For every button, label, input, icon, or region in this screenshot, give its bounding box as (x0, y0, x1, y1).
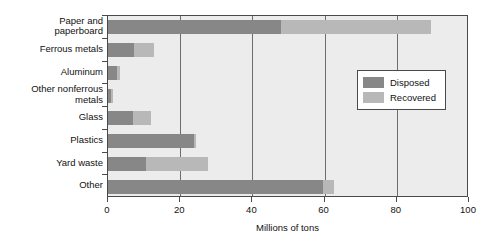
bar-row (108, 180, 334, 194)
bar-segment-recovered (146, 157, 208, 171)
bar-segment-recovered (134, 43, 154, 57)
y-axis-label: Aluminum (61, 67, 103, 78)
gridline (252, 16, 253, 196)
x-axis-tick (251, 197, 252, 202)
x-axis-tick (107, 197, 108, 202)
y-axis-label: Yard waste (56, 158, 103, 169)
gridline (325, 16, 326, 196)
x-axis-title-text: Millions of tons (256, 222, 319, 233)
bar-row (108, 134, 196, 148)
bar-segment-recovered (323, 180, 334, 194)
x-axis-tick-label: 20 (174, 204, 185, 215)
bar-segment-disposed (108, 111, 133, 125)
x-axis-tick (468, 197, 469, 202)
bar-segment-recovered (133, 111, 151, 125)
bar-row (108, 157, 208, 171)
bar-segment-recovered (111, 89, 113, 103)
y-axis-tick (102, 106, 107, 107)
legend-label-disposed: Disposed (390, 77, 430, 88)
x-axis-tick-label: 80 (391, 204, 402, 215)
y-axis-label: Ferrous metals (40, 44, 103, 55)
chart-legend: Disposed Recovered (357, 70, 446, 110)
y-axis-label: Glass (79, 112, 103, 123)
bar-segment-disposed (108, 43, 134, 57)
bar-row (108, 43, 154, 57)
y-axis-label: Other nonferrous metals (31, 84, 103, 105)
y-axis-tick (102, 61, 107, 62)
bar-row (108, 89, 113, 103)
bar-row (108, 111, 151, 125)
y-axis-tick (102, 152, 107, 153)
x-axis-tick (324, 197, 325, 202)
legend-label-recovered: Recovered (390, 92, 436, 103)
bar-segment-disposed (108, 134, 194, 148)
bar-row (108, 66, 120, 80)
x-axis-title: Millions of tons (0, 222, 500, 233)
legend-item-recovered: Recovered (363, 90, 440, 105)
x-axis-tick-label: 0 (104, 204, 109, 215)
y-axis-label: Paper and paperboard (54, 16, 103, 37)
bar-segment-recovered (281, 20, 431, 34)
y-axis-tick (102, 129, 107, 130)
legend-item-disposed: Disposed (363, 75, 440, 90)
legend-swatch-recovered (363, 92, 384, 103)
legend-swatch-disposed (363, 77, 384, 88)
bar-segment-disposed (108, 20, 281, 34)
y-axis-tick (102, 38, 107, 39)
bar-chart-figure: Paper and paperboardFerrous metalsAlumin… (0, 0, 500, 249)
x-axis-tick-label: 100 (460, 204, 476, 215)
y-axis-tick (102, 83, 107, 84)
bar-segment-disposed (108, 66, 117, 80)
x-axis-tick (396, 197, 397, 202)
bar-row (108, 20, 431, 34)
x-axis-tick-label: 40 (246, 204, 257, 215)
y-axis-label: Plastics (70, 135, 103, 146)
bar-segment-recovered (194, 134, 196, 148)
x-axis-tick-label: 60 (318, 204, 329, 215)
x-axis-tick (179, 197, 180, 202)
y-axis-tick (102, 15, 107, 16)
bar-segment-disposed (108, 157, 146, 171)
y-axis-tick (102, 174, 107, 175)
y-axis-label: Other (79, 180, 103, 191)
bar-segment-disposed (108, 180, 323, 194)
bar-segment-recovered (117, 66, 119, 80)
